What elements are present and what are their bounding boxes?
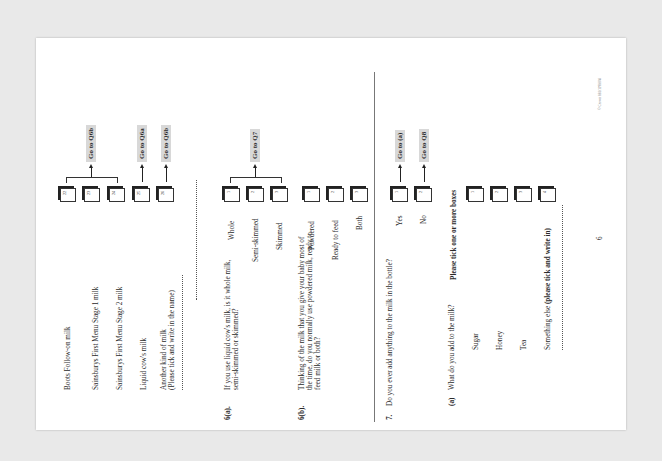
- option-label: Sainsburys First Menu Stage 1 milk: [92, 287, 100, 390]
- option-label-text: Something else: [544, 304, 552, 350]
- option-label: Honey: [496, 331, 504, 350]
- arrow-icon: [142, 167, 143, 182]
- checkbox-sugar[interactable]: 1: [468, 188, 484, 202]
- option-label: Liquid cow's milk: [140, 338, 148, 390]
- checkbox-yes[interactable]: 1: [392, 188, 408, 202]
- arrow-icon: [91, 167, 92, 177]
- option-label: Something else (please tick and write in…: [544, 228, 552, 350]
- goto-label: Go to (a): [395, 130, 405, 162]
- goto-label: Go to Q6a: [137, 125, 147, 162]
- checkbox-26[interactable]: 26: [158, 188, 174, 202]
- option-label: Whole: [228, 221, 236, 240]
- option-sublabel: (Please tick and write in the name): [168, 290, 176, 390]
- question-text: If you use liquid cow's milk, is it whol…: [224, 260, 232, 390]
- group-bracket: [66, 177, 118, 183]
- checkbox-no[interactable]: 2: [416, 188, 432, 202]
- checkbox-powdered[interactable]: 1: [304, 188, 320, 202]
- question-text: semi-skimmed or skimmed?: [232, 309, 240, 390]
- question-text: What do you add to the milk?: [448, 305, 456, 390]
- arrow-icon: [424, 167, 425, 182]
- option-label: Semi-skimmed: [252, 218, 260, 262]
- arrow-icon: [166, 167, 167, 182]
- question-text: feed milk or both?: [314, 337, 322, 390]
- goto-label: Go to Q6b: [86, 125, 96, 162]
- checkbox-22[interactable]: 22: [60, 188, 76, 202]
- checkbox-24[interactable]: 24: [109, 188, 125, 202]
- checkbox-both[interactable]: 3: [352, 188, 368, 202]
- write-in-line[interactable]: [562, 205, 563, 350]
- sub-question-number: (a): [448, 398, 456, 406]
- checkbox-skimmed[interactable]: 3: [272, 188, 288, 202]
- checkbox-semi-skimmed[interactable]: 2: [248, 188, 264, 202]
- arrow-icon: [255, 167, 256, 177]
- question-text: Do you ever add anything to the milk in …: [386, 259, 394, 406]
- checkbox-honey[interactable]: 2: [492, 188, 508, 202]
- instruction-text: Please tick one or more boxes: [450, 190, 458, 280]
- option-label: Tea: [520, 340, 528, 350]
- questionnaire-page: Boots Follow-on milk Sainsburys First Me…: [36, 38, 626, 430]
- divider-dotted: [196, 180, 197, 300]
- question-text: Thinking of the milk that you give your …: [298, 237, 306, 390]
- question-number: 6(a).: [224, 406, 232, 420]
- option-label: No: [420, 215, 428, 224]
- question-text: the time, do you normally use powdered m…: [306, 232, 314, 390]
- section-divider: [374, 72, 375, 422]
- option-label: Powdered: [308, 221, 316, 250]
- checkbox-whole[interactable]: 1: [224, 188, 240, 202]
- checkbox-something-else[interactable]: 4: [540, 188, 556, 202]
- question-number: 6(b).: [298, 406, 306, 420]
- option-label: Skimmed: [276, 222, 284, 250]
- goto-label: Go to Q7: [250, 129, 260, 162]
- question-number: 7.: [386, 415, 394, 420]
- write-in-line[interactable]: [182, 275, 183, 390]
- checkbox-tea[interactable]: 3: [516, 188, 532, 202]
- arrow-icon: [400, 167, 401, 182]
- option-label: Sainsburys First Menu Stage 2 milk: [116, 287, 124, 390]
- option-label: Another kind of milk: [160, 329, 168, 390]
- option-label: Boots Follow-on milk: [64, 327, 72, 391]
- checkbox-25[interactable]: 25: [134, 188, 150, 202]
- page-number: 6: [596, 236, 604, 240]
- document-sheet: Boots Follow-on milk Sainsburys First Me…: [36, 38, 626, 430]
- copyright-text: © Crown 881/1198/04: [598, 78, 602, 110]
- option-label: Ready to feed: [332, 220, 340, 260]
- checkbox-ready-to-feed[interactable]: 2: [328, 188, 344, 202]
- goto-label: Go to Q8: [419, 129, 429, 162]
- option-label: Both: [356, 216, 364, 230]
- checkbox-23[interactable]: 23: [84, 188, 100, 202]
- option-label-bold: (please tick and write in): [544, 228, 552, 304]
- goto-label: Go to Q6b: [161, 125, 171, 162]
- option-label: Yes: [396, 216, 404, 226]
- option-label: Sugar: [472, 333, 480, 350]
- group-bracket: [230, 177, 282, 183]
